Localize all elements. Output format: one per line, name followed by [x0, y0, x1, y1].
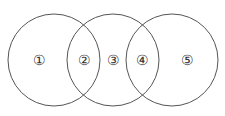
region-label-2: ②	[78, 52, 91, 68]
region-label-1: ①	[33, 52, 46, 68]
region-label-5: ⑤	[181, 52, 194, 68]
region-label-3: ③	[107, 52, 120, 68]
venn-diagram: ① ② ③ ④ ⑤	[0, 0, 225, 116]
region-label-4: ④	[136, 52, 149, 68]
